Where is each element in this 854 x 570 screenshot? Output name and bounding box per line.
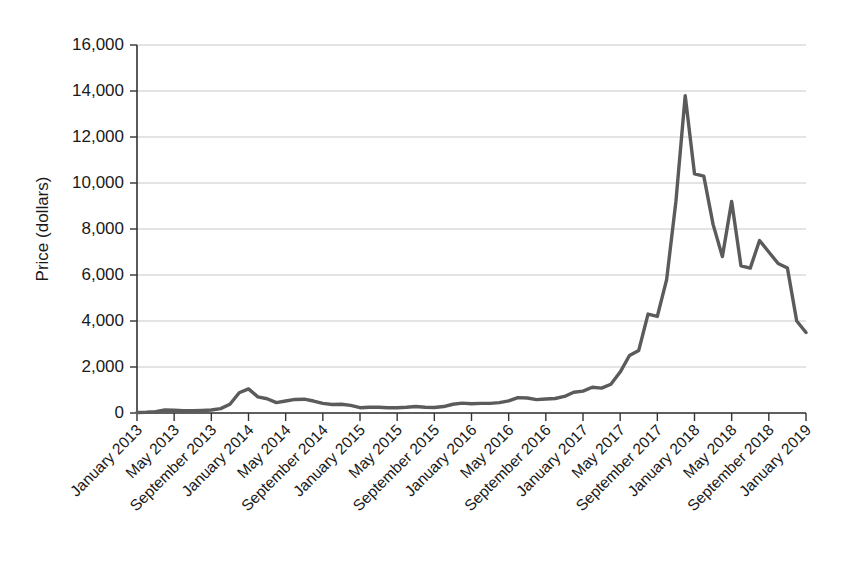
y-tick-label: 2,000 (81, 357, 124, 376)
price-series-line (137, 96, 806, 413)
chart-page: 02,0004,0006,0008,00010,00012,00014,0001… (0, 0, 854, 570)
y-axis (130, 45, 137, 413)
y-tick-label: 16,000 (72, 35, 124, 54)
x-axis-tick-labels: January 2013May 2013September 2013Januar… (67, 421, 814, 514)
x-axis (137, 413, 806, 421)
y-tick-label: 4,000 (81, 311, 124, 330)
y-axis-title: Price (dollars) (33, 177, 52, 282)
bitcoin-price-line-chart: 02,0004,0006,0008,00010,00012,00014,0001… (0, 0, 854, 570)
y-tick-label: 10,000 (72, 173, 124, 192)
y-tick-label: 14,000 (72, 81, 124, 100)
y-axis-tick-labels: 02,0004,0006,0008,00010,00012,00014,0001… (72, 35, 124, 422)
y-tick-label: 0 (115, 403, 124, 422)
gridlines-group (137, 45, 806, 413)
y-tick-label: 6,000 (81, 265, 124, 284)
y-tick-label: 12,000 (72, 127, 124, 146)
y-tick-label: 8,000 (81, 219, 124, 238)
